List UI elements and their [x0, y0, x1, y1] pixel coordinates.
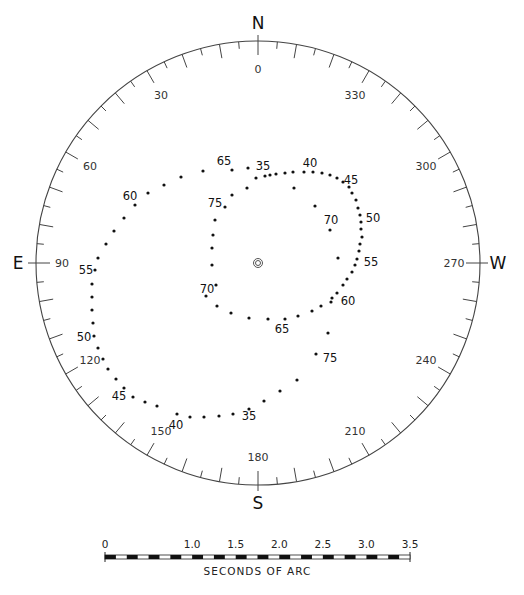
inner-loop-point	[319, 304, 322, 307]
outer-degree-ring	[28, 35, 488, 491]
scale-segment	[105, 555, 116, 559]
degree-tick	[147, 443, 154, 455]
outer-loop-point	[262, 399, 265, 402]
point-label: 70	[200, 282, 215, 296]
outer-loop-point	[112, 229, 115, 232]
inner-loop-point	[215, 304, 218, 307]
point-label: 60	[123, 189, 138, 203]
point-label: 35	[256, 159, 271, 173]
inner-loop-point	[353, 263, 356, 266]
inner-loop-point	[229, 311, 232, 314]
point-label: 65	[275, 322, 290, 336]
degree-tick	[66, 367, 78, 374]
point-label: 45	[112, 389, 127, 403]
spiral-point	[326, 331, 329, 334]
degree-tick	[463, 224, 477, 226]
degree-tick	[147, 71, 154, 83]
outer-loop-point	[202, 415, 205, 418]
outer-loop-point	[146, 191, 149, 194]
degree-tick	[472, 244, 479, 245]
degree-tick	[44, 206, 51, 208]
degree-tick	[88, 120, 99, 129]
outer-loop-point	[101, 357, 104, 360]
outer-loop-point	[162, 183, 165, 186]
scale-segment	[127, 555, 138, 559]
degree-tick	[410, 106, 415, 111]
scale-tick-label: 1.5	[227, 538, 244, 550]
degree-tick	[219, 44, 221, 58]
outer-loop-point	[133, 203, 136, 206]
degree-label: 300	[416, 160, 437, 173]
inner-loop-point	[210, 246, 213, 249]
inner-loop-point	[356, 206, 359, 209]
inner-loop-point	[350, 270, 353, 273]
scale-segment	[366, 555, 377, 559]
inner-loop-point	[335, 176, 338, 179]
degree-tick	[453, 334, 466, 339]
degree-tick	[201, 471, 203, 478]
point-label: 50	[77, 330, 92, 344]
outer-loop-point	[96, 346, 99, 349]
inner-loop-point	[274, 172, 277, 175]
degree-tick	[101, 106, 106, 111]
spiral-point	[313, 204, 316, 207]
degree-tick	[362, 443, 369, 455]
inner-loop-point	[328, 173, 331, 176]
inner-loop-point	[263, 174, 266, 177]
inner-loop-point	[302, 170, 305, 173]
outer-loop-point	[201, 169, 204, 172]
inner-loop-point	[211, 233, 214, 236]
spiral-point	[328, 228, 331, 231]
degree-tick	[44, 319, 51, 321]
scale-bar: 01.01.52.02.53.03.5SECONDS OF ARC	[102, 538, 419, 577]
scale-segment	[345, 555, 356, 559]
inner-loop-point	[310, 309, 313, 312]
degree-tick	[453, 169, 459, 172]
inner-loop-point	[296, 314, 299, 317]
point-label: 65	[217, 154, 232, 168]
degree-label: 60	[83, 160, 97, 173]
inner-loop-point	[213, 218, 216, 221]
degree-tick	[472, 282, 479, 283]
degree-tick	[164, 62, 167, 68]
degree-label: 30	[154, 89, 168, 102]
scale-tick-label: 2.5	[315, 538, 332, 550]
outer-loop-point	[175, 412, 178, 415]
degree-label: 0	[255, 63, 262, 76]
degree-tick	[101, 415, 106, 420]
degree-label: 270	[444, 257, 465, 270]
center-double-circle-icon	[254, 259, 263, 268]
degree-tick	[453, 187, 466, 192]
degree-tick	[277, 477, 278, 484]
inner-loop-point	[341, 283, 344, 286]
degree-tick	[37, 282, 44, 283]
outer-loop-point	[90, 295, 93, 298]
scale-tick-label: 2.0	[271, 538, 288, 550]
outer-loop-point	[131, 395, 134, 398]
degree-label: 210	[345, 425, 366, 438]
degree-tick	[349, 458, 352, 464]
inner-loop-point	[359, 227, 362, 230]
inner-loop-point	[245, 186, 248, 189]
degree-tick	[381, 439, 385, 445]
degree-tick	[294, 468, 296, 482]
point-label: 75	[323, 351, 338, 365]
point-label: 55	[79, 263, 94, 277]
outer-loop-point	[295, 378, 298, 381]
outer-loop-point	[230, 168, 233, 171]
degree-tick	[392, 93, 401, 104]
point-label: 40	[169, 418, 184, 432]
degree-tick	[434, 386, 440, 390]
inner-loop-point	[311, 170, 314, 173]
degree-tick	[438, 367, 450, 374]
cardinal-s: S	[253, 493, 264, 513]
cardinal-n: N	[252, 13, 265, 33]
inner-loop-point	[214, 283, 217, 286]
outer-loop-point	[122, 216, 125, 219]
inner-loop-point	[247, 316, 250, 319]
point-label: 60	[341, 294, 356, 308]
degree-tick	[131, 81, 135, 87]
inner-loop-point	[266, 317, 269, 320]
inner-loop-point	[230, 193, 233, 196]
scale-segment	[388, 555, 399, 559]
